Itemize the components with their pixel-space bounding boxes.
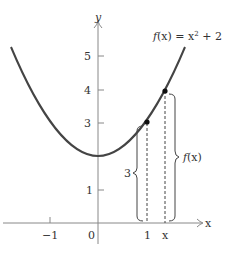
- point-x-fx: [162, 88, 167, 93]
- function-graph: y x 5 4 3 1 −1 0 1 x 3 f(x) f(x) = x2 + …: [0, 0, 227, 255]
- x-tick-neg1: −1: [42, 229, 58, 242]
- brace-label-fx: f(x): [182, 151, 202, 164]
- left-brace-icon: [133, 126, 143, 221]
- x-axis-label: x: [205, 217, 212, 230]
- x-tick-0: 0: [88, 229, 95, 242]
- brace-label-3: 3: [124, 167, 131, 180]
- y-tick-5: 5: [84, 50, 91, 63]
- dashed-guides: [147, 91, 165, 223]
- axes: [3, 21, 203, 244]
- function-label: f(x) = x2 + 2: [152, 30, 222, 43]
- y-tick-1: 1: [86, 184, 93, 197]
- y-tick-4: 4: [84, 84, 91, 97]
- y-tick-3: 3: [84, 117, 91, 130]
- x-tick-x: x: [162, 229, 169, 242]
- x-tick-1: 1: [144, 229, 151, 242]
- point-1-3: [144, 119, 149, 124]
- right-brace-icon: [169, 94, 179, 221]
- y-axis-label: y: [94, 11, 102, 24]
